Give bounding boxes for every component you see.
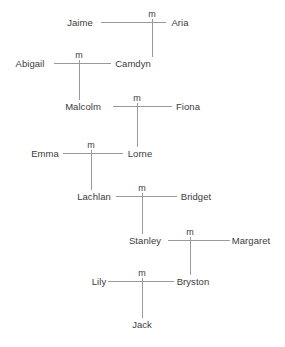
person-node-jaime[interactable]: Jaime xyxy=(65,17,95,28)
person-node-stanley[interactable]: Stanley xyxy=(127,235,163,246)
person-node-fiona[interactable]: Fiona xyxy=(174,101,202,112)
person-node-emma[interactable]: Emma xyxy=(29,148,61,159)
person-node-lily[interactable]: Lily xyxy=(90,276,108,287)
marriage-label-lily-bryston: m xyxy=(136,268,148,278)
tree-edges-layer xyxy=(0,0,285,347)
person-node-aria[interactable]: Aria xyxy=(169,17,190,28)
person-node-abigail[interactable]: Abigail xyxy=(14,58,47,69)
person-node-lorne[interactable]: Lorne xyxy=(126,148,155,159)
marriage-label-stanley-margaret: m xyxy=(184,227,196,237)
family-tree-diagram: JaimeAriamAbigailCamdynmMalcolmFionamEmm… xyxy=(0,0,285,347)
person-node-margaret[interactable]: Margaret xyxy=(230,235,272,246)
marriage-label-lachlan-bridget: m xyxy=(136,183,148,193)
person-node-bridget[interactable]: Bridget xyxy=(179,191,213,202)
marriage-label-jaime-aria: m xyxy=(146,9,158,19)
person-node-malcolm[interactable]: Malcolm xyxy=(63,101,103,112)
person-node-lachlan[interactable]: Lachlan xyxy=(75,191,113,202)
marriage-label-emma-lorne: m xyxy=(85,140,97,150)
person-node-bryston[interactable]: Bryston xyxy=(175,276,212,287)
marriage-label-abigail-camdyn: m xyxy=(73,50,85,60)
marriage-label-malcolm-fiona: m xyxy=(131,93,143,103)
person-node-jack[interactable]: Jack xyxy=(130,319,154,330)
person-node-camdyn[interactable]: Camdyn xyxy=(113,58,153,69)
